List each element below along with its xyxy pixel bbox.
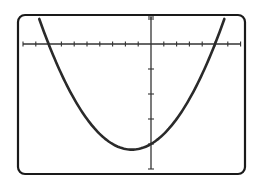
graphing-calculator-screen: y = x^2 + 3x - 40 <box>0 0 257 184</box>
parabola-plot <box>0 0 257 184</box>
